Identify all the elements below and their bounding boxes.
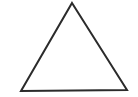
- triangle-figure: [0, 0, 138, 97]
- image-canvas: [0, 0, 138, 97]
- canvas-background: [0, 0, 138, 97]
